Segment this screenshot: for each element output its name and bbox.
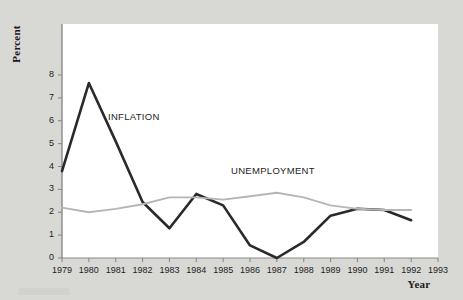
y-tick-label: 2 (40, 206, 54, 216)
axis-lines (62, 24, 438, 258)
series-label-inflation: INFLATION (108, 111, 160, 122)
series-label-unemployment: UNEMPLOYMENT (231, 165, 315, 176)
x-tick-label: 1993 (422, 265, 454, 275)
y-tick-label: 3 (40, 183, 54, 193)
chart-canvas (0, 0, 463, 300)
x-axis-title: Year (392, 278, 446, 290)
y-tick-label: 4 (40, 161, 54, 171)
y-tick-label: 1 (40, 229, 54, 239)
y-tick-label: 6 (40, 115, 54, 125)
y-tick-label: 7 (40, 92, 54, 102)
chart-figure: Percent 012345678 1979198019811982198319… (0, 0, 463, 300)
page-artifact (18, 288, 70, 295)
y-tick-label: 0 (40, 252, 54, 262)
y-tick-label: 8 (40, 69, 54, 79)
y-tick-label: 5 (40, 138, 54, 148)
